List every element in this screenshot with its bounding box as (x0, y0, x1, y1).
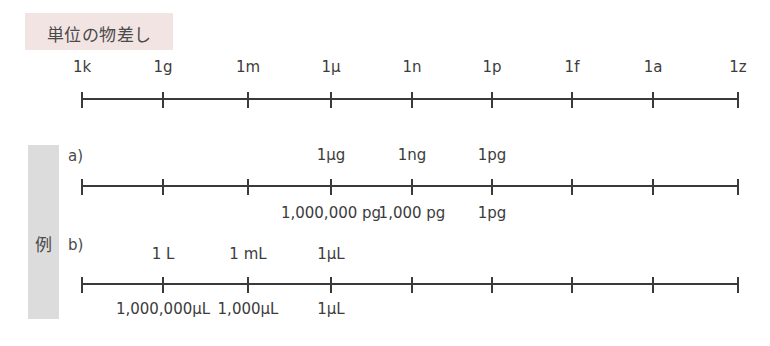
scale-tick (491, 92, 493, 108)
example-b-tick (411, 277, 413, 293)
example-a-tick (571, 179, 573, 195)
example-b-unit-label: 1 mL (229, 245, 266, 263)
example-a-value-label: 1pg (478, 204, 507, 222)
scale-label: 1μ (321, 58, 340, 76)
scale-label: 1f (565, 58, 580, 76)
example-b-tick (737, 277, 739, 293)
scale-tick (411, 92, 413, 108)
example-b-unit-label: 1 L (152, 245, 175, 263)
example-a-tick (162, 179, 164, 195)
example-b-tick (571, 277, 573, 293)
scale-tick (571, 92, 573, 108)
scale-tick (330, 92, 332, 108)
example-b-unit-label: 1μL (317, 245, 344, 263)
scale-label: 1p (482, 58, 501, 76)
scale-label: 1k (73, 58, 91, 76)
example-box: 例 (28, 145, 59, 319)
scale-tick (81, 92, 83, 108)
example-a-tick (411, 179, 413, 195)
scale-tick (247, 92, 249, 108)
example-a-tick (737, 179, 739, 195)
example-b-tick (247, 277, 249, 293)
title: 単位の物差し (25, 21, 173, 46)
scale-tick (162, 92, 164, 108)
example-a-unit-label: 1μg (317, 146, 346, 164)
example-b-tick (162, 277, 164, 293)
example-b-value-label: 1,000μL (218, 300, 279, 318)
example-a-tick (81, 179, 83, 195)
example-b-label: b) (68, 236, 83, 254)
example-a-tick (330, 179, 332, 195)
example-a-unit-label: 1pg (478, 146, 507, 164)
example-b-tick (330, 277, 332, 293)
example-a-unit-label: 1ng (398, 146, 427, 164)
example-a-tick (652, 179, 654, 195)
example-b-value-label: 1,000,000μL (116, 300, 210, 318)
example-a-tick (247, 179, 249, 195)
scale-label: 1a (644, 58, 663, 76)
scale-tick (652, 92, 654, 108)
example-a-tick (491, 179, 493, 195)
example-a-label: a) (68, 147, 83, 165)
example-b-tick (652, 277, 654, 293)
scale-label: 1g (153, 58, 172, 76)
example-b-tick (491, 277, 493, 293)
example-b-tick (81, 277, 83, 293)
title-box: 単位の物差し (25, 13, 173, 50)
scale-label: 1n (402, 58, 421, 76)
scale-tick (737, 92, 739, 108)
example-label: 例 (28, 231, 59, 256)
scale-label: 1m (236, 58, 260, 76)
example-b-value-label: 1μL (317, 300, 344, 318)
scale-label: 1z (729, 58, 746, 76)
example-a-value-label: 1,000,000 pg (281, 204, 381, 222)
example-a-value-label: 1,000 pg (379, 204, 446, 222)
